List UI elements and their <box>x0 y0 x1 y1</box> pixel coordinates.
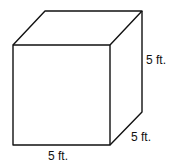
right-face-edges <box>110 11 142 145</box>
top-face-edges <box>13 11 142 45</box>
depth-label: 5 ft. <box>131 130 151 144</box>
height-label: 5 ft. <box>146 53 166 67</box>
front-face <box>13 45 110 145</box>
cube-diagram: 5 ft. 5 ft. 5 ft. <box>0 0 173 165</box>
width-label: 5 ft. <box>48 149 68 163</box>
